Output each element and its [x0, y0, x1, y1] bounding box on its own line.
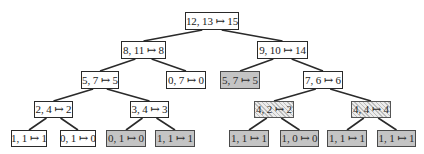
node-label: 12, 13 ↦ 15	[185, 16, 239, 27]
tree-edge	[330, 89, 371, 101]
tree-node-plain: 2, 4 ↦ 2	[34, 101, 73, 118]
node-label: 3, 4 ↦ 3	[131, 104, 169, 115]
node-label: 4, 4 ↦ 4	[352, 104, 390, 115]
tree-node-plain: 7, 6 ↦ 6	[303, 71, 343, 89]
tree-edge	[157, 118, 175, 130]
tree-node-hatched: 4, 4 ↦ 4	[351, 101, 391, 118]
tree-node-gray: 1, 0 ↦ 0	[280, 130, 319, 147]
tree-node-plain: 1, 1 ↦ 1	[11, 130, 47, 147]
tree-edge	[152, 59, 186, 71]
node-label: 1, 1 ↦ 1	[230, 133, 268, 144]
node-label: 5, 7 ↦ 5	[221, 75, 259, 86]
node-label: 0, 1 ↦ 0	[59, 133, 97, 144]
tree-diagram: 12, 13 ↦ 158, 11 ↦ 89, 10 ↦ 145, 7 ↦ 50,…	[0, 0, 424, 154]
tree-edge	[347, 118, 364, 130]
tree-edge	[378, 118, 396, 130]
tree-node-plain: 0, 1 ↦ 0	[60, 130, 96, 147]
tree-edge	[292, 59, 323, 71]
tree-node-gray: 1, 1 ↦ 1	[155, 130, 195, 147]
node-label: 1, 1 ↦ 1	[10, 133, 48, 144]
tree-edge	[107, 89, 150, 101]
tree-edge	[222, 30, 283, 41]
tree-edge	[240, 59, 273, 71]
tree-node-plain: 12, 13 ↦ 15	[185, 12, 239, 30]
tree-node-gray: 0, 1 ↦ 0	[106, 130, 146, 147]
tree-node-plain: 0, 7 ↦ 0	[166, 71, 206, 89]
tree-edge	[29, 118, 46, 130]
node-label: 7, 6 ↦ 6	[304, 75, 342, 86]
tree-node-plain: 9, 10 ↦ 14	[257, 41, 308, 59]
node-label: 8, 11 ↦ 8	[122, 45, 165, 56]
node-label: 0, 7 ↦ 0	[167, 75, 205, 86]
node-label: 4, 2 ↦ 2	[255, 104, 293, 115]
node-label: 1, 1 ↦ 1	[156, 133, 194, 144]
tree-node-plain: 3, 4 ↦ 3	[130, 101, 169, 118]
tree-node-gray: 1, 1 ↦ 1	[229, 130, 269, 147]
node-label: 5, 7 ↦ 5	[81, 75, 119, 86]
tree-edge	[274, 89, 316, 101]
node-label: 9, 10 ↦ 14	[258, 45, 307, 56]
tree-edge	[126, 118, 142, 130]
tree-node-gray: 1, 1 ↦ 1	[327, 130, 367, 147]
tree-node-gray: 5, 7 ↦ 5	[220, 71, 260, 89]
tree-node-plain: 8, 11 ↦ 8	[121, 41, 166, 59]
tree-edge	[61, 118, 78, 130]
tree-edge	[144, 30, 203, 41]
tree-node-plain: 5, 7 ↦ 5	[81, 71, 119, 89]
tree-edge	[54, 89, 94, 101]
node-label: 1, 1 ↦ 1	[378, 133, 416, 144]
node-label: 0, 1 ↦ 0	[107, 133, 145, 144]
node-label: 1, 1 ↦ 1	[328, 133, 366, 144]
tree-node-hatched: 4, 2 ↦ 2	[254, 101, 294, 118]
node-label: 2, 4 ↦ 2	[35, 104, 73, 115]
tree-edge	[249, 118, 267, 130]
tree-edge	[100, 59, 135, 71]
tree-node-gray: 1, 1 ↦ 1	[377, 130, 416, 147]
tree-edge	[281, 118, 299, 130]
node-label: 1, 0 ↦ 0	[281, 133, 319, 144]
